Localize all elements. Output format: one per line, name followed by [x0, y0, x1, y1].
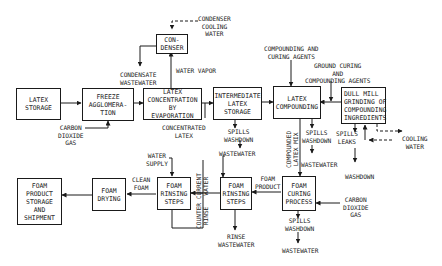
foam-rinsing-left-box: FOAM RINSING STEPS	[157, 177, 191, 210]
condenser-box: CON- DENSER	[156, 34, 188, 54]
intermediate-storage-box: INTERMEDIATE LATEX STORAGE	[213, 87, 262, 120]
dull-mill-box: DULL MILL GRINDING OF COMPOUNDING INGRED…	[341, 87, 386, 124]
latex-concentration-box: LATEX CONCENTRATION BY EVAPORATION	[143, 88, 202, 120]
clean-foam-label: CLEAN FOAM	[132, 176, 150, 191]
rinse-wastewater-label: RINSE WASTEWATER	[218, 233, 254, 248]
wastewater-storage-label: WASTEWATER	[219, 150, 255, 158]
compounded-latex-mix-label: COMPOUNDED LATEX MIX	[285, 131, 299, 168]
compounding-curing-agents-label: COMPOUNDING AND CURING AGENTS	[264, 45, 318, 60]
spills-washdown-compounding-label: SPILLS WASHDOWN	[302, 129, 331, 144]
water-supply-label: WATER SUPPLY	[146, 152, 168, 167]
latex-compounding-box: LATEX COMPOUNDING	[273, 86, 321, 119]
concentrated-latex-label: CONCENTRATED LATEX	[162, 124, 206, 139]
washdown-label: WASHDOWN	[345, 173, 374, 181]
carbon-dioxide-gas-bottom-label: CARBON DIOXIDE GAS	[343, 196, 368, 219]
freeze-agglomeration-box: FREEZE AGGLOMERA- TION	[82, 88, 134, 121]
wastewater-compounding-label: WASTEWATER	[301, 161, 337, 169]
spills-leaks-label: SPILLS LEAKS	[336, 130, 358, 145]
foam-rinsing-right-box: FOAM RINSING STEPS	[220, 177, 252, 210]
cooling-water-label: COOLING WATER	[402, 135, 427, 150]
spills-washdown-storage-label: SPILLS WASHDOWN	[224, 128, 253, 143]
foam-drying-box: FOAM DRYING	[92, 178, 126, 211]
foam-product-label: FOAM PRODUCT	[255, 175, 280, 190]
condensate-wastewater-label: CONDENSATE WASTEWATER	[120, 71, 156, 86]
ground-curing-agents-label: GROUND CURING AND COMPOUNDING AGENTS	[305, 62, 370, 85]
spills-washdown-curing-label: SPILLS WASHDOWN	[285, 217, 314, 232]
latex-storage-box: LATEX STORAGE	[16, 88, 61, 120]
foam-curing-box: FOAM CURING PROCESS	[282, 176, 316, 211]
wastewater-curing-label: WASTEWATER	[282, 247, 318, 255]
carbon-dioxide-gas-top-label: CARBON DIOXIDE GAS	[58, 124, 83, 147]
counter-current-water-label: COUNTER CURRENT RINSE WATER	[195, 173, 209, 229]
foam-product-storage-box: FOAM PRODUCT STORAGE AND SHIPMENT	[17, 178, 62, 225]
condenser-cooling-water-label: CONDENSER COOLING WATER	[198, 15, 231, 38]
water-vapor-label: WATER VAPOR	[176, 67, 216, 75]
